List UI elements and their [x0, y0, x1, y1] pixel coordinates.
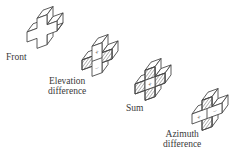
sum-label: Sum	[126, 103, 143, 113]
azimuth-cross-shape: + −	[192, 85, 228, 134]
sum-cross-shape: +	[135, 55, 171, 104]
front-label: Front	[6, 52, 27, 62]
plus-sign: +	[95, 48, 99, 57]
plus-sign: +	[197, 113, 201, 122]
elevation-label-line-2: difference	[48, 86, 86, 96]
front-label-line: Front	[6, 52, 27, 62]
elevation-cross-shape: + −	[82, 31, 118, 80]
sum-label-line: Sum	[126, 103, 143, 113]
azimuth-label-line-1: Azimuth	[163, 129, 201, 139]
azimuth-label-line-2: difference	[163, 139, 201, 149]
minus-sign: −	[213, 107, 217, 116]
elevation-difference-label: Elevation difference	[48, 76, 86, 96]
diagram-canvas: + − + + −	[0, 0, 245, 160]
plus-sign: +	[148, 80, 152, 89]
elevation-label-line-1: Elevation	[48, 76, 86, 86]
front-cross-shape	[27, 3, 63, 52]
minus-sign: −	[95, 64, 99, 73]
azimuth-difference-label: Azimuth difference	[163, 129, 201, 149]
